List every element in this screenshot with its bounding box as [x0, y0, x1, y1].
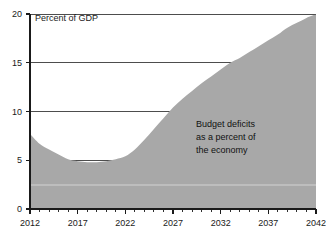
chart-container: 05101520 2012201720222027203220372042 Pe…	[0, 0, 326, 232]
y-tick-label-20: 20	[12, 9, 22, 19]
x-tick-label-2017: 2017	[68, 218, 88, 228]
budget-deficit-area-chart: 05101520 2012201720222027203220372042 Pe…	[0, 0, 326, 232]
y-tick-label-15: 15	[12, 58, 22, 68]
x-tick-label-2042: 2042	[306, 218, 326, 228]
x-tick-label-2027: 2027	[163, 218, 183, 228]
x-tick-label-2012: 2012	[20, 218, 40, 228]
callout-line-3: the economy	[196, 145, 248, 155]
x-tick-label-2032: 2032	[211, 218, 231, 228]
y-tick-label-0: 0	[17, 204, 22, 214]
x-tick-label-2022: 2022	[115, 218, 135, 228]
series-callout-annotation: Budget deficits as a percent of the econ…	[196, 119, 256, 155]
x-tick-label-2037: 2037	[258, 218, 278, 228]
y-tick-label-5: 5	[17, 155, 22, 165]
y-tick-label-10: 10	[12, 107, 22, 117]
callout-line-2: as a percent of	[196, 132, 256, 142]
y-axis-unit-note: Percent of GDP	[35, 13, 98, 23]
callout-line-1: Budget deficits	[196, 119, 256, 129]
